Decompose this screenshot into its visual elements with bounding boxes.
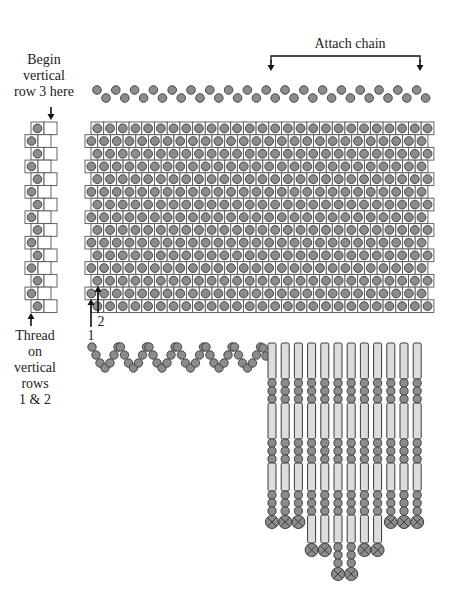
seed-bead	[281, 379, 289, 387]
grid-bead	[245, 149, 254, 158]
grid-bead	[189, 162, 198, 171]
grid-bead	[398, 200, 407, 209]
grid-bead	[100, 264, 109, 273]
grid-bead	[341, 162, 350, 171]
grid-bead	[176, 238, 185, 247]
grid-bead	[106, 226, 115, 235]
grid-bead	[100, 187, 109, 196]
grid-bead	[163, 289, 172, 298]
grid-bead	[207, 149, 216, 158]
grid-bead	[354, 137, 363, 146]
grid-bead	[423, 302, 432, 311]
grid-bead	[150, 238, 159, 247]
seed-bead	[268, 455, 276, 463]
grid-bead	[245, 124, 254, 133]
wavy-chain-bead	[173, 343, 181, 351]
grid-bead	[385, 226, 394, 235]
grid-bead	[245, 226, 254, 235]
grid-bead	[112, 162, 121, 171]
grid-bead	[106, 251, 115, 260]
grid-bead	[182, 251, 191, 260]
grid-bead	[233, 276, 242, 285]
strip-bead	[27, 137, 36, 146]
seed-bead	[360, 439, 368, 447]
top-chain-bead	[356, 86, 365, 95]
grid-bead	[296, 251, 305, 260]
grid-bead	[322, 276, 331, 285]
seed-bead	[400, 379, 408, 387]
grid-bead	[417, 187, 426, 196]
seed-bead	[413, 455, 421, 463]
seed-bead	[268, 491, 276, 499]
grid-bead	[87, 289, 96, 298]
top-chain-bead	[346, 94, 355, 103]
seed-bead	[400, 439, 408, 447]
grid-bead	[156, 302, 165, 311]
grid-bead	[156, 200, 165, 209]
wavy-chain-bead	[234, 351, 242, 359]
grid-bead	[189, 238, 198, 247]
seed-bead	[413, 387, 421, 395]
grid-bead	[207, 124, 216, 133]
top-chain-bead	[337, 86, 346, 95]
wavy-chain-bead	[202, 343, 210, 351]
grid-bead	[131, 302, 140, 311]
grid-bead	[309, 251, 318, 260]
strip-cell	[44, 173, 57, 186]
seed-bead	[268, 439, 276, 447]
thread-on-label: Thread on vertical rows 1 & 2	[0, 328, 70, 408]
grid-bead	[138, 238, 147, 247]
wavy-chain-bead	[106, 359, 114, 367]
grid-bead	[227, 264, 236, 273]
grid-bead	[195, 226, 204, 235]
seed-bead	[321, 395, 329, 403]
grid-bead	[303, 213, 312, 222]
top-chain-bead	[233, 94, 242, 103]
bugle-bead	[334, 403, 342, 439]
grid-bead	[322, 302, 331, 311]
grid-bead	[125, 289, 134, 298]
bugle-bead	[308, 515, 316, 543]
grid-bead	[379, 238, 388, 247]
seed-bead	[268, 499, 276, 507]
seed-bead	[294, 387, 302, 395]
seed-bead	[347, 551, 355, 559]
strip-cell	[38, 135, 51, 148]
grid-bead	[169, 175, 178, 184]
grid-bead	[404, 187, 413, 196]
grid-bead	[290, 238, 299, 247]
grid-bead	[182, 175, 191, 184]
grid-bead	[354, 238, 363, 247]
seed-bead	[308, 499, 316, 507]
grid-bead	[290, 162, 299, 171]
seed-bead	[334, 507, 342, 515]
grid-bead	[182, 149, 191, 158]
grid-bead	[385, 276, 394, 285]
seed-bead	[347, 379, 355, 387]
grid-bead	[150, 162, 159, 171]
bugle-bead	[374, 403, 382, 439]
grid-bead	[144, 175, 153, 184]
grid-bead	[156, 149, 165, 158]
seed-bead	[281, 439, 289, 447]
grid-bead	[347, 251, 356, 260]
grid-bead	[233, 175, 242, 184]
grid-bead	[112, 264, 121, 273]
grid-bead	[214, 289, 223, 298]
seed-bead	[268, 447, 276, 455]
grid-bead	[150, 289, 159, 298]
bugle-bead	[400, 343, 408, 379]
strip-cell	[44, 274, 57, 287]
seed-bead	[360, 491, 368, 499]
grid-bead	[328, 289, 337, 298]
grid-bead	[360, 276, 369, 285]
grid-bead	[385, 124, 394, 133]
grid-bead	[316, 137, 325, 146]
seed-bead	[387, 455, 395, 463]
strip-cell	[38, 287, 51, 300]
grid-bead	[265, 213, 274, 222]
grid-bead	[163, 213, 172, 222]
seed-bead	[347, 447, 355, 455]
grid-bead	[131, 251, 140, 260]
seed-bead	[294, 447, 302, 455]
